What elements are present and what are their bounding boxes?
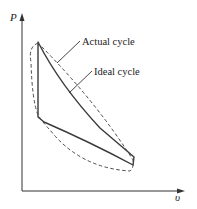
ideal-cycle-curve: [38, 42, 134, 165]
ideal-cycle-leader-line: [69, 71, 92, 93]
actual-cycle-label: Actual cycle: [82, 36, 135, 47]
actual-cycle-leader-line: [57, 41, 80, 63]
y-axis-label: P: [9, 11, 17, 23]
y-axis-arrow-icon: [20, 13, 25, 21]
pv-diagram-figure: P υ Actual cycle Ideal cycle: [0, 0, 197, 209]
pv-diagram-svg: P υ Actual cycle Ideal cycle: [0, 0, 197, 209]
ideal-cycle-label: Ideal cycle: [94, 66, 140, 77]
x-axis-label: υ: [175, 191, 180, 203]
